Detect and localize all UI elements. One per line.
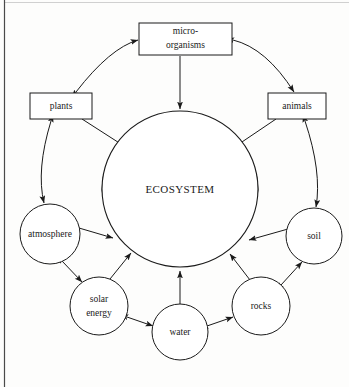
link-atmosphere-ecosystem (79, 228, 113, 238)
soil-label: soil (307, 231, 321, 241)
node-plants[interactable]: plants (30, 93, 92, 119)
water-label: water (169, 327, 191, 337)
link-rocks-soil (281, 262, 302, 285)
micro-organisms-label-line2: organisms (166, 40, 205, 50)
diagram-canvas: ECOSYSTEM micro- organisms plants animal… (0, 0, 349, 387)
solar-energy-label-line1: solar (90, 294, 109, 304)
link-atmosphere-solarenergy (62, 261, 82, 282)
node-rocks[interactable]: rocks (232, 277, 290, 335)
atmosphere-label: atmosphere (28, 229, 72, 239)
node-water[interactable]: water (152, 304, 208, 360)
link-animals-soil (305, 121, 318, 207)
micro-organisms-label-line1: micro- (173, 26, 198, 36)
rocks-label: rocks (251, 301, 272, 311)
link-plants-atmosphere (41, 121, 51, 203)
link-water-rocks (207, 317, 233, 326)
plants-label: plants (50, 101, 73, 111)
solar-energy-circle[interactable] (70, 277, 128, 335)
ecosystem-label: ECOSYSTEM (146, 183, 215, 195)
node-atmosphere[interactable]: atmosphere (20, 204, 80, 264)
node-animals[interactable]: animals (268, 93, 326, 119)
link-solarenergy-water (127, 317, 153, 326)
link-rocks-ecosystem (230, 254, 250, 280)
link-microorganisms-animals (233, 40, 294, 92)
solar-energy-label-line2: energy (86, 308, 112, 318)
node-solar-energy[interactable]: solar energy (70, 277, 128, 335)
link-solarenergy-ecosystem (110, 253, 131, 279)
node-soil[interactable]: soil (286, 208, 342, 264)
node-ecosystem[interactable]: ECOSYSTEM (102, 111, 258, 267)
node-micro-organisms[interactable]: micro- organisms (139, 23, 232, 55)
link-soil-ecosystem (249, 229, 288, 240)
animals-label: animals (282, 101, 312, 111)
link-plants-microorganisms (76, 40, 138, 92)
ecosystem-diagram: ECOSYSTEM micro- organisms plants animal… (0, 0, 349, 387)
